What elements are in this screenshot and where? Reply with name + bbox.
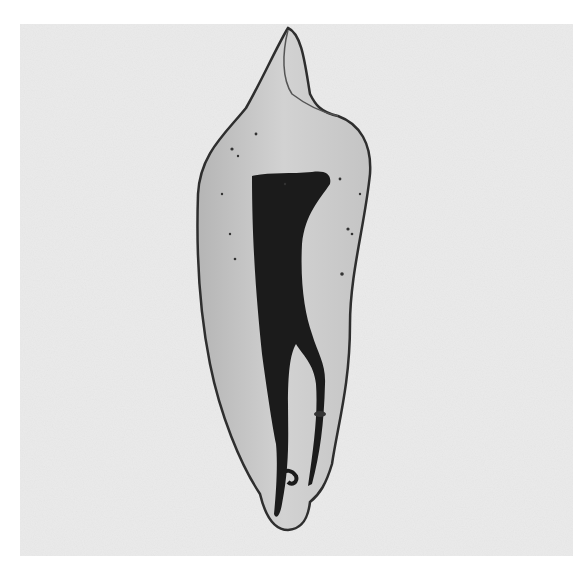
tooth-illustration bbox=[20, 24, 573, 556]
specimen-photograph bbox=[20, 24, 573, 556]
